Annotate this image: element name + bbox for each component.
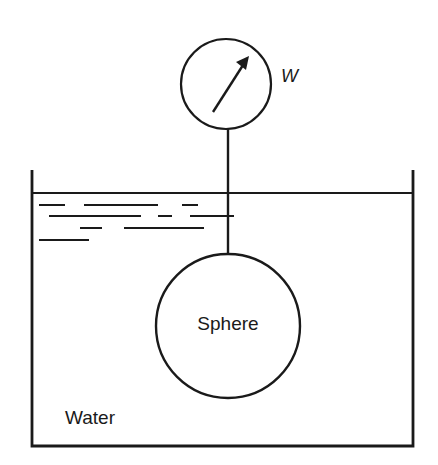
water-surface-hatching (39, 205, 234, 240)
needle-arrow-icon (213, 56, 249, 112)
gauge-label: W (281, 66, 300, 86)
container (32, 170, 413, 446)
spring-scale (181, 39, 271, 129)
fluid-label: Water (65, 407, 116, 428)
sphere-label: Sphere (197, 313, 258, 334)
gauge-dial (181, 39, 271, 129)
buoyancy-diagram: W Sphere Water (0, 0, 438, 465)
